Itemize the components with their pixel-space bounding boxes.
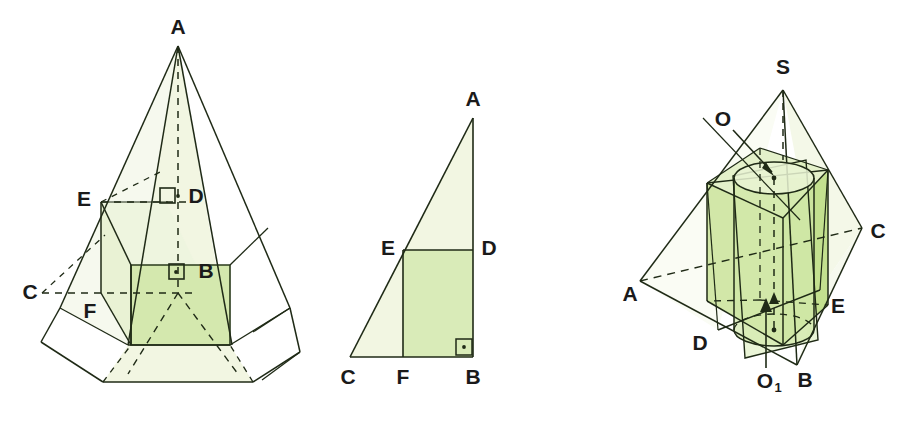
extension-stroke-lower-right — [262, 352, 300, 380]
pyramid-base-front-face — [103, 345, 253, 382]
center-point-O1 — [772, 328, 777, 333]
label-D: D — [188, 184, 203, 207]
base-edge-right-upper — [290, 308, 300, 352]
center-point-O — [772, 176, 777, 181]
label-C: C — [870, 219, 885, 242]
figure-pyramid-with-inscribed-prism: A E D C F B — [22, 15, 300, 382]
label-A: A — [465, 87, 480, 110]
label-C: C — [340, 365, 355, 388]
prism-front-face — [131, 265, 230, 345]
label-S: S — [776, 55, 790, 78]
label-F: F — [397, 365, 410, 388]
figure-canvas: A E D C F B A E D C F B — [0, 0, 920, 427]
label-E: E — [381, 236, 395, 259]
label-A: A — [622, 282, 637, 305]
label-F: F — [84, 299, 97, 322]
label-B: B — [465, 365, 480, 388]
extension-stroke-upper-right — [230, 228, 268, 265]
label-D: D — [481, 236, 496, 259]
label-D: D — [692, 331, 707, 354]
label-O1: O 1 — [757, 369, 782, 396]
label-C: C — [22, 280, 37, 303]
extension-stroke-mid-right — [253, 308, 290, 332]
label-B: B — [797, 368, 812, 391]
label-E: E — [831, 294, 845, 317]
figure-tetrahedron-with-prism-and-cylinder: S O C A E D O 1 B — [622, 55, 885, 396]
geometry-figures-svg: A E D C F B A E D C F B — [0, 0, 920, 427]
label-O1-subscript: 1 — [774, 380, 781, 395]
label-E: E — [77, 187, 91, 210]
label-A: A — [170, 15, 185, 38]
rectangle-EFBD-face — [403, 250, 473, 357]
figure-right-triangle-cross-section: A E D C F B — [340, 87, 496, 388]
label-B: B — [198, 259, 213, 282]
label-O1-letter: O — [757, 369, 773, 392]
label-O: O — [715, 107, 731, 130]
